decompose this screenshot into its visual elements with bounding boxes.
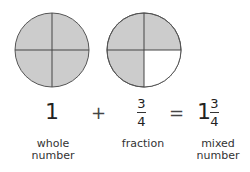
label-whole-number: whole number xyxy=(28,138,78,162)
fraction-numerator: 3 xyxy=(137,97,145,110)
whole-number: 1 xyxy=(45,101,59,123)
fraction: 3 4 xyxy=(137,97,146,128)
plus-sign: + xyxy=(91,104,106,122)
label-fraction: fraction xyxy=(118,138,168,150)
fraction-circles xyxy=(0,0,250,95)
label-mixed-number: mixed number xyxy=(193,138,243,162)
mixed-fraction-bar xyxy=(210,112,219,113)
three-quarter-circle xyxy=(107,13,181,87)
equals-sign: = xyxy=(169,104,184,122)
mixed-numerator: 3 xyxy=(210,97,218,110)
fraction-denominator: 4 xyxy=(137,115,145,128)
whole-circle xyxy=(15,13,89,87)
mixed-whole: 1 xyxy=(197,101,211,123)
mixed-fraction: 3 4 xyxy=(210,97,219,128)
fraction-bar xyxy=(137,112,146,113)
mixed-denominator: 4 xyxy=(210,115,218,128)
